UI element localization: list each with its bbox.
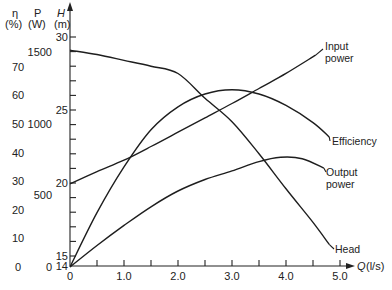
output-power-label: Output [326,166,358,178]
x-axis-symbol: Q [357,260,366,272]
h-tick-label: 30 [56,31,68,43]
series-labels: InputpowerEfficiencyOutputpowerHead [316,40,378,255]
h-tick-label: 25 [56,104,68,116]
p-tick-label: 1500 [28,46,52,58]
efficiency-leader [329,137,330,141]
efficiency-label: Efficiency [332,135,377,147]
p-axis-unit: (W) [28,18,46,30]
head-label: Head [335,243,360,255]
eta-tick-label: 0 [15,261,21,273]
p-tick-label: 1000 [28,118,52,130]
x-tick-label: 4.0 [278,270,293,282]
eta-tick-label: 20 [12,204,24,216]
input-power-leader [316,49,323,55]
eta-tick-label: 70 [12,61,24,73]
x-tick-label: 2.0 [170,270,185,282]
head-leader [329,244,334,249]
pump-characteristic-chart: η (%) P (W) H (m) Q (l/s) 01.02.03.04.05… [0,0,392,290]
output-power-label: power [326,178,355,190]
ticks [70,37,340,266]
tick-labels: 01.02.03.04.05.0141520253001020304050607… [12,31,348,282]
input-power-label: power [325,52,354,64]
x-tick-label: 1.0 [116,270,131,282]
curves [70,50,329,267]
x-tick-label: 5.0 [332,270,347,282]
head-curve [70,50,329,244]
input-power-label: Input [325,40,348,52]
p-tick-label: 0 [46,261,52,273]
h-tick-label: 15 [56,250,68,262]
x-tick-label: 3.0 [224,270,239,282]
y-axis-arrow [67,2,73,11]
efficiency-curve [70,90,329,267]
eta-tick-label: 40 [12,147,24,159]
eta-tick-label: 50 [12,118,24,130]
eta-tick-label: 30 [12,175,24,187]
x-axis-unit: (l/s) [366,260,384,272]
output-power-curve [70,157,324,267]
h-axis-unit: (m) [54,18,71,30]
input-power-curve [70,55,316,184]
axes [67,2,355,269]
eta-tick-label: 10 [12,232,24,244]
x-axis-arrow [346,263,355,269]
eta-axis-unit: (%) [5,18,22,30]
eta-tick-label: 60 [12,89,24,101]
h-tick-label: 20 [56,177,68,189]
p-tick-label: 500 [34,189,52,201]
